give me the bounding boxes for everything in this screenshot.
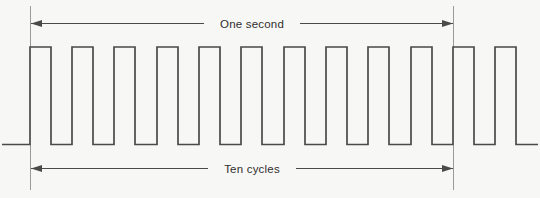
one-second-label: One second [220, 18, 284, 30]
square-waveform-group [2, 47, 538, 145]
ten-cycles-label: Ten cycles [224, 163, 280, 175]
one-second-arrowhead-left-icon [31, 20, 42, 27]
ten-cycles-dimension-group: Ten cycles [31, 159, 453, 178]
one-second-arrowhead-right-icon [442, 20, 453, 27]
timing-diagram-figure: One second Ten cycles [0, 0, 540, 198]
ten-cycles-arrowhead-right-icon [442, 165, 453, 172]
timing-diagram-svg: One second Ten cycles [0, 0, 540, 198]
one-second-dimension-group: One second [31, 14, 453, 33]
ten-cycles-arrowhead-left-icon [31, 165, 42, 172]
square-waveform-path [2, 47, 538, 145]
